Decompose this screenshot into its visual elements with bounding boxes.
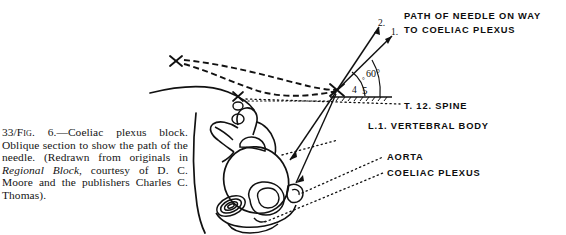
marker-angle-4: 4 (352, 85, 357, 95)
caption-em-dash: — (56, 126, 68, 138)
body-wall-curve (194, 113, 206, 233)
needle-trajectory-dashed-upper (184, 60, 338, 90)
needle-path-line-2 (337, 27, 379, 90)
leader-coeliac-plexus (265, 173, 383, 222)
leader-aorta (302, 157, 383, 193)
annotation-needle-path-line2: TO COELIAC PLEXUS (404, 25, 515, 35)
marker-needle-1: 1. (391, 27, 398, 37)
caption-italic-title: Regional Block (2, 164, 79, 176)
annotation-coeliac-plexus: COELIAC PLEXUS (387, 168, 481, 178)
skin-entry-marker-mid (233, 92, 243, 101)
marker-angle-60-degrees: 60° (366, 68, 380, 79)
needle-arrow-to-vertebra (290, 92, 336, 160)
marker-angle-5: 5 (362, 84, 368, 96)
figure-caption: 33/Fig. 6.—Coeliac plexus block. Oblique… (2, 126, 188, 202)
skin-surface-curve (150, 86, 254, 110)
marker-needle-2: 2. (378, 18, 385, 28)
caption-number: 33/ (2, 126, 17, 138)
transverse-process-left-inner (215, 127, 233, 140)
soft-tissue-notch (254, 218, 266, 222)
coeliac-ganglion-inner (292, 189, 299, 195)
needle-trajectory-dashed-lower (184, 64, 338, 96)
annotation-l1-vertebral-body: L.1. VERTEBRAL BODY (368, 121, 489, 131)
coeliac-ganglion (287, 184, 303, 202)
needle-arrow-to-plexus (296, 94, 336, 183)
caption-fig-label: Fig. 6. (17, 126, 57, 138)
marker-degree-symbol: ° (362, 76, 365, 84)
figure-page: 33/Fig. 6.—Coeliac plexus block. Oblique… (0, 0, 566, 235)
annotation-t12-spine: T. 12. SPINE (404, 101, 467, 111)
skin-entry-marker-left (170, 56, 182, 66)
coeliac-plexus-ring-inner (258, 188, 279, 208)
spinous-process (237, 108, 257, 135)
needle-hub-marker (233, 102, 243, 110)
annotation-needle-path-line1: PATH OF NEEDLE ON WAY (404, 11, 541, 21)
transverse-process-left (211, 122, 238, 152)
annotation-aorta: AORTA (387, 152, 424, 162)
